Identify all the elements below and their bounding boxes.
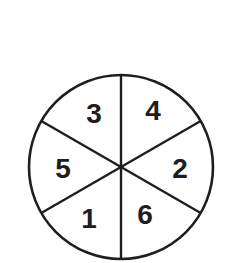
sector-label-top-right: 4 <box>145 97 161 125</box>
sector-label-bottom-left: 1 <box>81 205 97 233</box>
spinner-circle <box>0 0 231 263</box>
sector-label-right: 2 <box>172 155 188 183</box>
sector-label-left: 5 <box>55 155 71 183</box>
sector-label-top-left: 3 <box>86 100 102 128</box>
sector-label-bottom-right: 6 <box>137 201 153 229</box>
spinner-diagram: 3 4 2 6 1 5 <box>0 0 231 263</box>
